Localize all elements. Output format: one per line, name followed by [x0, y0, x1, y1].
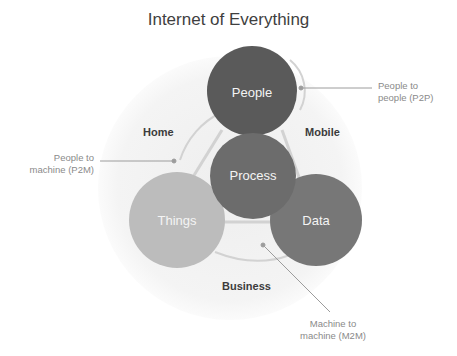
- callout-p2m-line2: machine (P2M): [24, 164, 94, 176]
- people-node-label: People: [232, 85, 272, 100]
- callout-p2m-line1: People to: [24, 152, 94, 164]
- callout-m2m-line1: Machine to: [298, 318, 368, 330]
- callout-p2p-line1: People to: [378, 80, 433, 92]
- callout-m2m-line2: machine (M2M): [298, 330, 368, 342]
- callout-p2m: People to machine (P2M): [24, 152, 94, 176]
- zone-business: Business: [222, 280, 271, 292]
- diagram-canvas: [0, 0, 457, 356]
- zone-mobile: Mobile: [305, 126, 340, 138]
- callout-m2m: Machine to machine (M2M): [298, 318, 368, 342]
- zone-home: Home: [143, 126, 174, 138]
- things-node-label: Things: [157, 213, 196, 228]
- callout-p2p: People to people (P2P): [378, 80, 433, 104]
- process-node-label: Process: [230, 168, 277, 183]
- data-node-label: Data: [302, 213, 329, 228]
- callout-p2p-line2: people (P2P): [378, 92, 433, 104]
